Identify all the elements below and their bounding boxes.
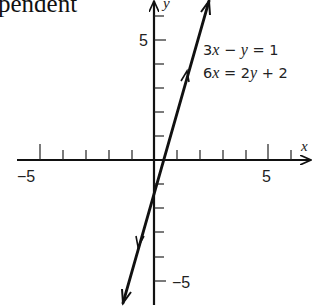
dependent-system-figure: pendent −5 5 x	[0, 0, 314, 306]
equation-2: 6x = 2y + 2	[203, 64, 288, 82]
equation-labels: 3x − y = 1 6x = 2y + 2	[203, 41, 288, 82]
x-tick-label-neg5: −5	[17, 168, 35, 185]
x-axis-label: x	[300, 138, 308, 154]
y-tick-label-5: 5	[139, 32, 148, 49]
equation-1: 3x − y = 1	[203, 41, 278, 59]
x-tick-label-5: 5	[262, 168, 271, 185]
y-axis-label: y	[161, 0, 170, 11]
solution-line	[122, 1, 210, 303]
caption-fragment: pendent	[0, 0, 77, 18]
y-tick-label-neg5: −5	[172, 274, 190, 291]
coordinate-plane: −5 5 x 5 −5 y	[0, 0, 314, 306]
y-axis-ticks	[154, 16, 166, 281]
